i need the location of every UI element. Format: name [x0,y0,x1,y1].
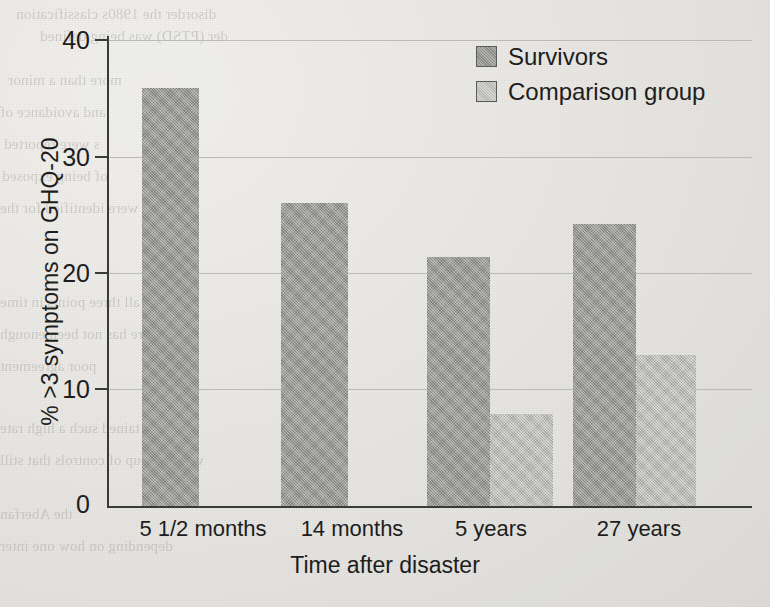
ytick-label-40: 40 [62,26,90,55]
bar-survivors-5half-months[interactable] [142,88,199,506]
bar-comparison-5-years[interactable] [490,414,553,506]
xtick-label-14-months: 14 months [301,516,404,542]
x-axis-line [107,506,752,508]
y-axis-line [107,36,109,508]
ytick-label-0: 0 [76,490,90,519]
legend-item-survivors[interactable]: Survivors [476,42,705,71]
chart-legend: Survivors Comparison group [476,42,705,112]
legend-label-comparison-group: Comparison group [508,78,705,106]
bar-survivors-5-years[interactable] [427,257,490,506]
legend-item-comparison-group[interactable]: Comparison group [476,77,705,106]
bar-survivors-27-years[interactable] [573,224,636,506]
legend-swatch-icon [476,81,497,102]
ytick-label-20: 20 [62,259,90,288]
legend-label-survivors: Survivors [508,43,608,71]
ytick-label-10: 10 [62,375,90,404]
legend-swatch-icon [476,46,497,67]
ytick-label-30: 30 [62,143,90,172]
bar-comparison-27-years[interactable] [636,355,696,507]
xtick-label-5-years: 5 years [455,516,527,542]
x-axis-title: Time after disaster [0,552,770,579]
y-axis-title: % >3 symptoms on GHQ-20 [37,72,64,492]
xtick-label-27-years: 27 years [597,516,681,542]
bar-chart: 40 30 20 10 0 5 1/2 months 14 months 5 y… [0,0,770,607]
xtick-label-5half-months: 5 1/2 months [139,516,266,542]
bar-survivors-14-months[interactable] [281,203,348,506]
